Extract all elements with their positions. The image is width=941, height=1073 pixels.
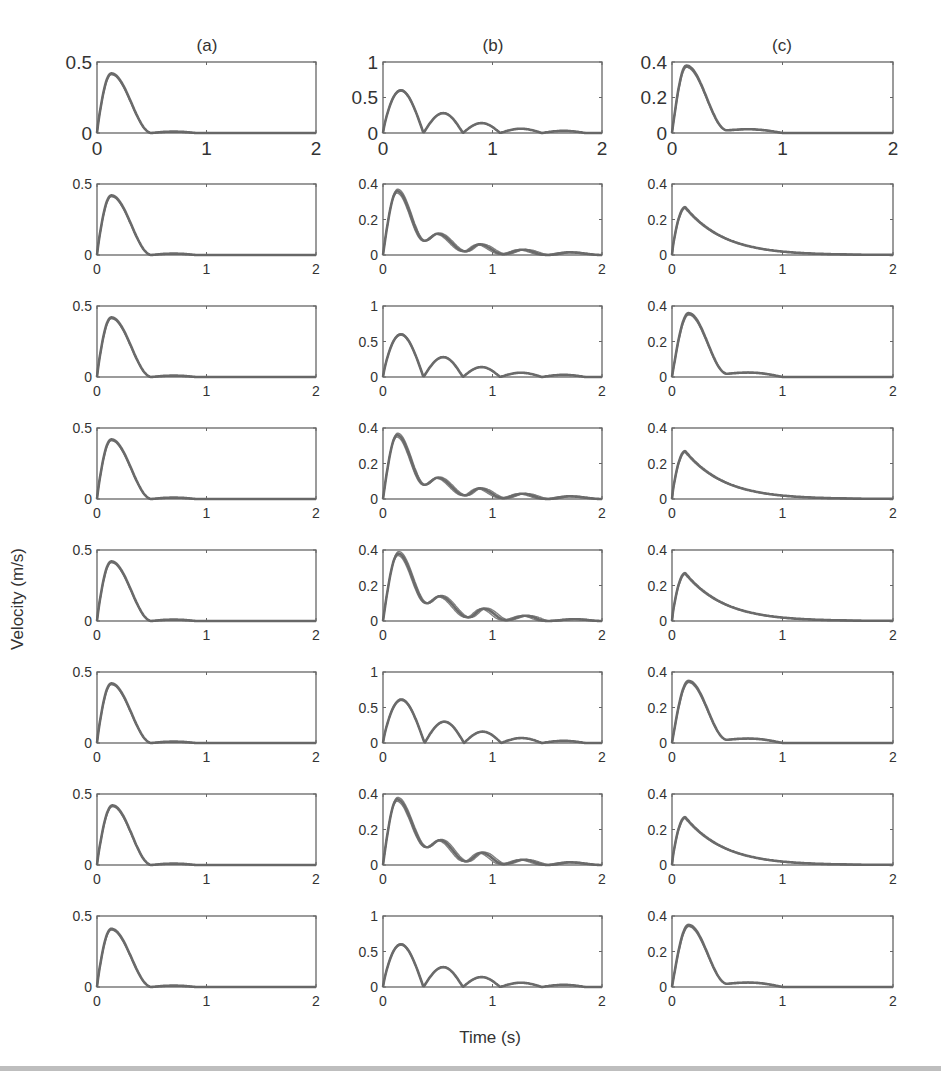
- x-tick-label: 0: [379, 383, 387, 399]
- y-tick-label: 0: [84, 857, 92, 873]
- velocity-trace: [383, 189, 602, 255]
- y-tick-label: 0: [659, 491, 667, 507]
- x-tick-label: 2: [889, 383, 897, 399]
- x-tick-label: 0: [379, 993, 387, 1009]
- velocity-trace: [97, 196, 316, 255]
- x-tick-label: 1: [203, 993, 211, 1009]
- axes-box: [672, 306, 893, 377]
- velocity-trace: [97, 806, 316, 865]
- x-tick-label: 0: [93, 993, 101, 1009]
- y-tick-label: 0.2: [359, 578, 379, 594]
- velocity-trace: [672, 574, 893, 621]
- x-tick-label: 1: [203, 749, 211, 765]
- panel-7-c: 01200.20.4: [648, 786, 898, 887]
- panel-4-c: 01200.20.4: [648, 420, 898, 521]
- y-tick-label: 0: [370, 613, 378, 629]
- x-tick-label: 2: [598, 871, 606, 887]
- velocity-trace: [672, 818, 893, 865]
- x-tick-label: 2: [312, 871, 320, 887]
- y-tick-label: 0.5: [66, 52, 92, 73]
- panel-2-c: 01200.20.4: [648, 176, 898, 277]
- y-tick-label: 0.4: [359, 420, 379, 436]
- x-tick-label: 0: [93, 505, 101, 521]
- velocity-trace: [383, 193, 602, 255]
- axes-box: [672, 550, 893, 621]
- velocity-trace: [97, 805, 316, 865]
- y-tick-label: 0.5: [73, 542, 93, 558]
- panel-2-a: 01200.5: [73, 176, 321, 277]
- velocity-trace: [97, 930, 316, 987]
- x-tick-label: 1: [203, 261, 211, 277]
- x-tick-label: 2: [598, 505, 606, 521]
- axes-box: [672, 794, 893, 865]
- x-tick-label: 0: [668, 993, 676, 1009]
- y-tick-label: 0: [370, 247, 378, 263]
- panel-5-a: 01200.5: [73, 542, 321, 643]
- velocity-trace: [383, 797, 602, 865]
- y-tick-label: 1: [370, 664, 378, 680]
- x-tick-label: 1: [201, 138, 212, 159]
- x-tick-label: 1: [489, 505, 497, 521]
- y-tick-label: 0.4: [359, 542, 379, 558]
- velocity-trace: [672, 573, 893, 621]
- x-tick-label: 1: [487, 138, 498, 159]
- panel-2-b: 01200.20.4: [359, 176, 607, 277]
- x-tick-label: 0: [379, 627, 387, 643]
- x-tick-label: 0: [379, 505, 387, 521]
- y-tick-label: 0: [370, 735, 378, 751]
- panel-6-b: 01200.51: [359, 664, 607, 765]
- panel-8-a: 01200.5: [73, 908, 321, 1009]
- x-tick-label: 0: [93, 627, 101, 643]
- panel-6-c: 01200.20.4: [648, 664, 898, 765]
- velocity-trace: [383, 433, 602, 499]
- x-tick-label: 0: [379, 871, 387, 887]
- y-tick-label: 0.2: [359, 456, 379, 472]
- y-tick-label: 0: [659, 247, 667, 263]
- y-tick-label: 0.5: [73, 664, 93, 680]
- velocity-trace: [97, 561, 316, 621]
- x-tick-label: 2: [598, 627, 606, 643]
- x-tick-label: 1: [777, 138, 788, 159]
- y-tick-label: 0: [84, 491, 92, 507]
- y-tick-label: 0: [656, 123, 667, 144]
- x-tick-label: 0: [668, 749, 676, 765]
- x-tick-label: 1: [779, 627, 787, 643]
- x-tick-label: 2: [312, 383, 320, 399]
- y-tick-label: 0.4: [648, 298, 668, 314]
- y-tick-label: 0: [84, 369, 92, 385]
- panel-3-a: 01200.5: [73, 298, 321, 399]
- panel-8-c: 01200.20.4: [648, 908, 898, 1009]
- velocity-trace: [97, 439, 316, 499]
- y-tick-label: 0: [84, 979, 92, 995]
- y-tick-label: 1: [367, 52, 378, 73]
- y-tick-label: 0.2: [641, 87, 667, 108]
- x-tick-label: 0: [92, 138, 103, 159]
- panel-5-b: 01200.20.4: [359, 542, 607, 643]
- x-tick-label: 2: [312, 627, 320, 643]
- y-tick-label: 1: [370, 908, 378, 924]
- panel-8-b: 01200.51: [359, 908, 607, 1009]
- y-tick-label: 0.2: [359, 822, 379, 838]
- velocity-trace: [97, 74, 316, 133]
- velocity-trace: [383, 554, 602, 621]
- y-tick-label: 0.4: [648, 664, 668, 680]
- y-tick-label: 0.4: [648, 908, 668, 924]
- y-tick-label: 0: [659, 979, 667, 995]
- velocity-trace: [672, 315, 893, 377]
- velocity-trace: [97, 562, 316, 621]
- velocity-trace: [672, 315, 893, 377]
- x-tick-label: 1: [203, 505, 211, 521]
- velocity-trace: [97, 440, 316, 499]
- y-tick-label: 0: [84, 613, 92, 629]
- velocity-trace: [672, 452, 893, 499]
- y-tick-label: 0.2: [648, 944, 668, 960]
- y-tick-label: 0: [659, 857, 667, 873]
- velocity-trace: [97, 684, 316, 743]
- y-tick-label: 0.5: [73, 298, 93, 314]
- panel-7-a: 01200.5: [73, 786, 321, 887]
- velocity-trace: [672, 817, 893, 865]
- y-tick-label: 0: [370, 491, 378, 507]
- y-tick-label: 0.4: [648, 420, 668, 436]
- caption-cutoff: [0, 1062, 941, 1073]
- x-tick-label: 1: [779, 871, 787, 887]
